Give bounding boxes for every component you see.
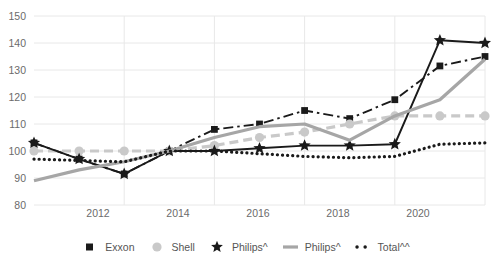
series-layer <box>28 34 491 181</box>
legend-item[interactable]: Total^^ <box>354 241 410 253</box>
dotted-line-swatch <box>354 241 374 253</box>
line-chart: 150 140 130 120 110 100 90 80 2012 2014 … <box>0 0 491 256</box>
gridlines <box>34 16 485 205</box>
filled-star-marker <box>208 241 228 253</box>
legend-label: Shell <box>172 241 195 253</box>
legend-item[interactable]: Philips^ <box>281 241 341 253</box>
solid-line-swatch <box>281 241 301 253</box>
legend-item[interactable]: Philips^ <box>208 241 268 253</box>
plot-area <box>0 0 491 256</box>
legend-item[interactable]: Shell <box>148 241 195 253</box>
legend-label: Exxon <box>105 241 134 253</box>
legend-label: Philips^ <box>232 241 268 253</box>
legend: ExxonShellPhilips^Philips^Total^^ <box>0 241 491 253</box>
filled-square-marker <box>81 241 101 253</box>
legend-item[interactable]: Exxon <box>81 241 134 253</box>
legend-label: Total^^ <box>378 241 410 253</box>
legend-label: Philips^ <box>305 241 341 253</box>
filled-circle-marker <box>148 241 168 253</box>
